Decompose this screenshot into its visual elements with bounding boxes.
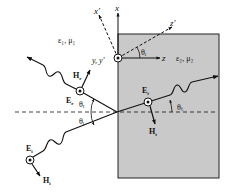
incident-angle-label: θᵢ bbox=[79, 117, 85, 126]
incident-h-label: Hi bbox=[43, 176, 51, 186]
medium-2-label: ε₂, μ₂ bbox=[176, 54, 193, 63]
reflected-h-label: Hr bbox=[73, 71, 82, 81]
reflected-h-field-arrow bbox=[82, 70, 90, 87]
reflected-e-label: Er bbox=[66, 96, 74, 106]
x-axis-label: x bbox=[114, 3, 119, 13]
reflected-angle-label: θᵣ bbox=[79, 100, 85, 109]
z-prime-axis-label: z′ bbox=[169, 18, 177, 28]
reflected-angle-arc bbox=[91, 99, 94, 112]
medium-1-label: ε₁, μ₁ bbox=[58, 36, 75, 45]
incident-h-field-arrow bbox=[32, 164, 40, 176]
x-prime-axis-label: x′ bbox=[93, 6, 101, 16]
x-prime-axis bbox=[99, 15, 118, 58]
medium-2-region bbox=[118, 34, 219, 178]
z-axis-label: z bbox=[161, 53, 166, 63]
incident-angle-arc bbox=[91, 112, 94, 125]
origin-angle-label: θᵢ bbox=[141, 48, 147, 57]
incident-ray bbox=[33, 112, 117, 157]
transmitted-angle-label: θₜ bbox=[177, 103, 183, 112]
oblique-incidence-diagram: x x′ z′ z y, y′ θᵢ ε₁, μ₁ ε₂, μ₂ θᵣ θᵢ θ… bbox=[0, 0, 228, 194]
incident-e-label: Ei bbox=[26, 144, 33, 154]
y-axis-label: y, y′ bbox=[91, 56, 105, 65]
